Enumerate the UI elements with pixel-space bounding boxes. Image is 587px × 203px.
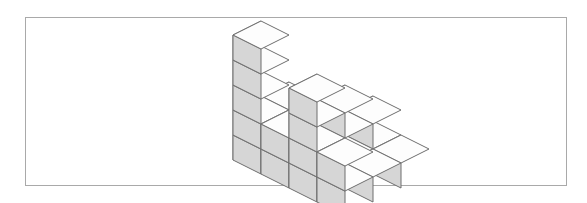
screenshot-root [0, 0, 587, 203]
isometric-cube-stack [0, 0, 587, 203]
cube-layer [233, 21, 429, 203]
